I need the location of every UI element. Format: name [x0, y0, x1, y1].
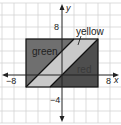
graph-svg: y x 8 −4 −8 8 green yellow red — [0, 0, 121, 125]
y-axis-up-arrow-icon — [60, 4, 65, 10]
tick-label-x-neg8: −8 — [6, 76, 16, 86]
tick-label-x-8: 8 — [106, 76, 111, 86]
coordinate-plane-figure: y x 8 −4 −8 8 green yellow red — [0, 0, 121, 125]
tick-label-y-8: 8 — [54, 22, 59, 32]
tick-label-y-neg4: −4 — [50, 95, 60, 105]
x-axis-label: x — [113, 75, 119, 85]
red-region-label: red — [77, 64, 91, 75]
y-axis-label: y — [65, 3, 71, 13]
y-axis-down-arrow-icon — [60, 116, 65, 122]
green-region-label: green — [32, 46, 58, 57]
yellow-region-label: yellow — [76, 26, 105, 37]
